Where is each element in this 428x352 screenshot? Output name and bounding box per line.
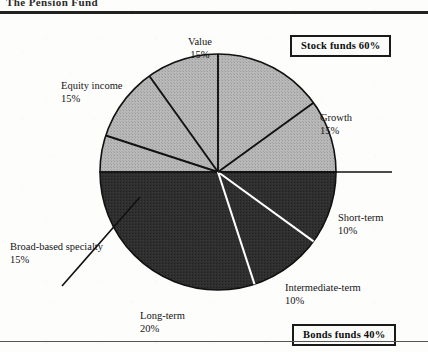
- slice-label-broad-based-specialty-name: Broad-based specialty: [10, 241, 103, 252]
- legend-box-bonds-funds: Bonds funds 40%: [292, 324, 396, 346]
- slice-label-intermediate-term-pct: 10%: [285, 295, 361, 308]
- slice-label-intermediate-term: Intermediate-term 10%: [285, 282, 361, 307]
- slice-label-long-term-name: Long-term: [140, 310, 185, 321]
- legend-box-stock-funds: Stock funds 60%: [290, 35, 391, 57]
- slice-label-short-term-pct: 10%: [338, 225, 384, 238]
- slice-label-long-term-pct: 20%: [140, 323, 185, 336]
- slice-label-broad-based-specialty-pct: 15%: [10, 254, 103, 267]
- slice-label-growth-pct: 15%: [320, 125, 352, 138]
- slice-label-value-pct: 15%: [188, 49, 212, 62]
- slice-label-growth: Growth 15%: [320, 112, 352, 137]
- slice-label-long-term: Long-term 20%: [140, 310, 185, 335]
- slice-label-short-term: Short-term 10%: [338, 212, 384, 237]
- slice-label-equity-income-name: Equity income: [61, 80, 123, 91]
- pie-chart: Value 15% Equity income 15% Growth 15% S…: [0, 14, 428, 340]
- slice-label-equity-income: Equity income 15%: [61, 80, 123, 105]
- slice-label-short-term-name: Short-term: [338, 212, 384, 223]
- horizontal-rule-bottom: [0, 341, 428, 342]
- slice-label-value: Value 15%: [188, 36, 212, 61]
- slice-label-broad-based-specialty: Broad-based specialty 15%: [10, 241, 103, 266]
- slice-label-growth-name: Growth: [320, 112, 352, 123]
- pie-chart-svg: [0, 14, 428, 340]
- slice-label-value-name: Value: [188, 36, 212, 47]
- document-page: The Pension Fund: [0, 0, 428, 352]
- running-head-text: The Pension Fund: [6, 0, 186, 9]
- slice-label-intermediate-term-name: Intermediate-term: [285, 282, 361, 293]
- slice-label-equity-income-pct: 15%: [61, 93, 123, 106]
